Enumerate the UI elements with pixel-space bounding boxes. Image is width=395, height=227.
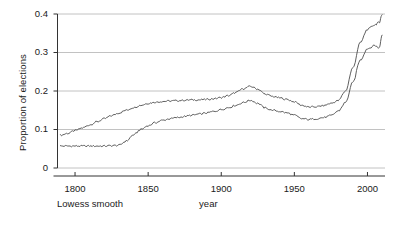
y-tick-label: 0.2	[22, 85, 48, 96]
y-tick-label: 0.1	[22, 123, 48, 134]
x-tick-label: 1800	[55, 183, 95, 194]
y-tick-label: 0	[22, 162, 48, 173]
x-axis-title: year	[199, 198, 218, 209]
x-tick-label: 2000	[347, 183, 387, 194]
x-tick-label: 1850	[128, 183, 168, 194]
chart-annotation-lowess-smooth: Lowess smooth	[57, 198, 123, 209]
chart-figure: Proportion of elections year Lowess smoo…	[0, 0, 395, 227]
data-line-upper	[60, 15, 382, 136]
y-tick-label: 0.3	[22, 46, 48, 57]
x-tick-label: 1950	[274, 183, 314, 194]
y-tick-label: 0.4	[22, 8, 48, 19]
x-tick-label: 1900	[201, 183, 241, 194]
